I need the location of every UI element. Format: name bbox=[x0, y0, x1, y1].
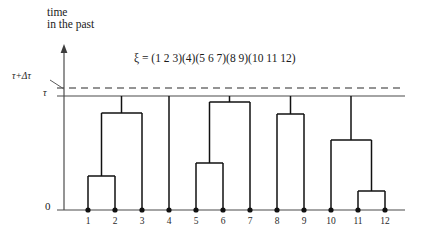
tree-block-1-2-3 bbox=[88, 96, 142, 210]
leaf-dot bbox=[139, 207, 144, 212]
coalescent-tree-svg bbox=[0, 0, 424, 238]
tick-label-tau: τ bbox=[43, 88, 47, 99]
y-axis-title-line2: in the past bbox=[47, 18, 94, 30]
tree-block-5-6-7 bbox=[196, 96, 250, 210]
leaf-dot bbox=[193, 207, 198, 212]
y-axis bbox=[61, 44, 68, 210]
leaf-dot bbox=[247, 207, 252, 212]
leaf-label-8: 8 bbox=[267, 216, 287, 226]
y-axis-arrowhead bbox=[61, 44, 68, 53]
leaf-dot bbox=[382, 207, 387, 212]
leaf-label-12: 12 bbox=[375, 216, 395, 226]
leaf-label-6: 6 bbox=[213, 216, 233, 226]
partition-formula-annotation: ξ = (1 2 3)(4)(5 6 7)(8 9)(10 11 12) bbox=[134, 52, 296, 64]
leaf-label-7: 7 bbox=[240, 216, 260, 226]
tick-label-zero: 0 bbox=[45, 201, 51, 213]
leaf-label-1: 1 bbox=[78, 216, 98, 226]
tree-block-10-11-12 bbox=[331, 96, 385, 210]
leaf-label-11: 11 bbox=[348, 216, 368, 226]
y-axis-title-line1: time bbox=[47, 6, 94, 18]
leaf-label-4: 4 bbox=[159, 216, 179, 226]
leaf-dot bbox=[112, 207, 117, 212]
figure-canvas: time in the past τ+Δτ τ 0 ξ = (1 2 3)(4)… bbox=[0, 0, 424, 238]
leaf-label-10: 10 bbox=[321, 216, 341, 226]
leaf-dot bbox=[355, 207, 360, 212]
leaf-dot bbox=[274, 207, 279, 212]
leaf-label-3: 3 bbox=[132, 216, 152, 226]
y-axis-title: time in the past bbox=[47, 6, 94, 31]
leaf-dot bbox=[85, 207, 90, 212]
leaf-dot bbox=[301, 207, 306, 212]
leaf-label-5: 5 bbox=[186, 216, 206, 226]
leaf-label-9: 9 bbox=[294, 216, 314, 226]
tree-block-8-9 bbox=[277, 96, 304, 210]
leaf-dot bbox=[220, 207, 225, 212]
leaf-dot bbox=[328, 207, 333, 212]
leaf-label-2: 2 bbox=[105, 216, 125, 226]
leaf-dot bbox=[166, 207, 171, 212]
tick-label-tau-plus-delta-tau: τ+Δτ bbox=[12, 71, 31, 81]
